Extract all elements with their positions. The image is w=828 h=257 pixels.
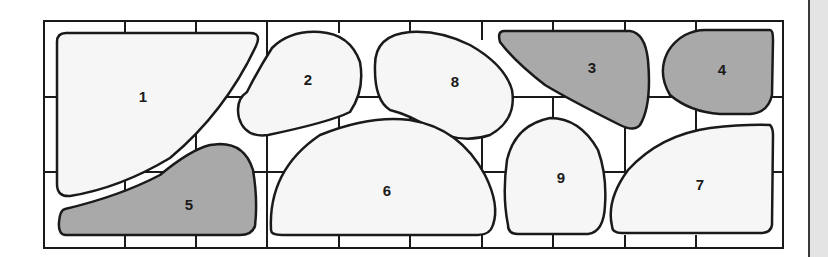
shape-7 xyxy=(611,125,773,233)
label-7: 7 xyxy=(696,176,704,193)
label-1: 1 xyxy=(139,88,147,105)
label-3: 3 xyxy=(588,59,596,76)
label-8: 8 xyxy=(451,73,459,90)
label-4: 4 xyxy=(718,61,727,78)
page-edge-strip xyxy=(808,0,828,257)
shape-9 xyxy=(505,118,606,234)
label-9: 9 xyxy=(557,169,565,186)
label-5: 5 xyxy=(185,196,193,213)
label-2: 2 xyxy=(304,71,312,88)
label-6: 6 xyxy=(383,182,391,199)
shape-3 xyxy=(499,31,649,129)
diagram-canvas: 1 2 3 4 5 6 7 8 9 xyxy=(0,0,828,257)
